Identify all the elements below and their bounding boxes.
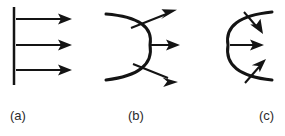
panel-label-c: (c) xyxy=(259,108,274,123)
panel-a-ray-1 xyxy=(16,14,72,25)
panel-label-b: (b) xyxy=(128,108,144,123)
panel-b-ray-lower xyxy=(133,64,178,87)
panel-b-ray-middle xyxy=(150,40,180,51)
panel-b-ray-upper xyxy=(131,9,177,28)
arrowhead-icon xyxy=(252,59,266,72)
panel-c-group xyxy=(228,12,272,83)
panel-a-ray-2 xyxy=(16,40,72,51)
panel-b-group xyxy=(106,9,180,87)
panel-c-ray-middle xyxy=(230,40,264,51)
panel-a-ray-3 xyxy=(16,65,72,76)
wavefront-ray-figure: (a) (b) (c) xyxy=(0,0,285,136)
arrowhead-icon xyxy=(162,77,178,87)
panel-a-group xyxy=(14,7,72,85)
panel-label-a: (a) xyxy=(10,108,26,123)
